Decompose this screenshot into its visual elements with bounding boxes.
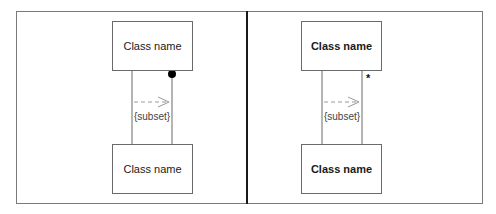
right-top-class-name: Class name [311, 40, 372, 52]
right-subset-arrow-icon [324, 97, 359, 107]
right-top-class-box[interactable]: Class name [301, 21, 382, 71]
right-subset-constraint: {subset} [312, 111, 372, 122]
composite-dot-icon [168, 70, 176, 78]
left-bottom-class-name: Class name [123, 163, 181, 175]
right-bottom-class-name: Class name [311, 163, 372, 175]
left-subset-arrow-icon [134, 97, 169, 107]
left-subset-constraint: {subset} [122, 111, 182, 122]
multiplicity-star: * [366, 73, 370, 83]
left-bottom-class-box[interactable]: Class name [112, 144, 193, 194]
right-bottom-class-box[interactable]: Class name [301, 144, 382, 194]
association-lines [0, 0, 496, 214]
left-top-class-box[interactable]: Class name [112, 21, 193, 71]
left-top-class-name: Class name [123, 40, 181, 52]
